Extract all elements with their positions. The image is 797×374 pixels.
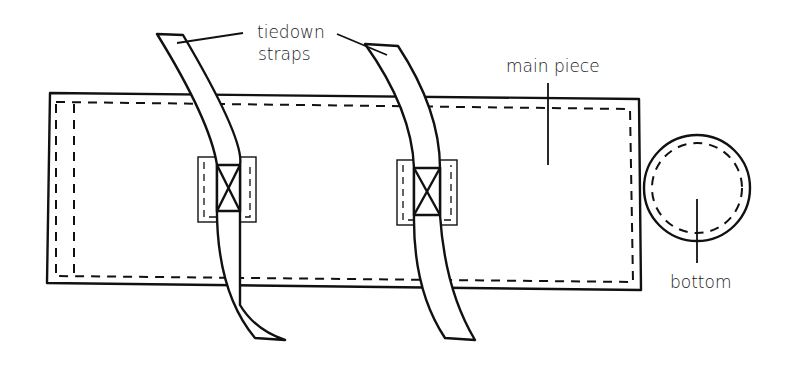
right-tiedown-strap [365, 44, 475, 340]
main-piece [47, 93, 641, 290]
straps-leader-left [177, 33, 243, 43]
bottom-piece [644, 135, 750, 263]
pattern-diagram: tiedown straps main piece bottom [0, 0, 797, 374]
label-main-piece: main piece [506, 56, 600, 76]
label-bottom: bottom [670, 272, 731, 292]
label-straps: straps [258, 44, 311, 64]
left-tiedown-strap [157, 34, 285, 340]
label-tiedown: tiedown [257, 22, 325, 42]
diagram-canvas: tiedown straps main piece bottom [0, 0, 797, 374]
